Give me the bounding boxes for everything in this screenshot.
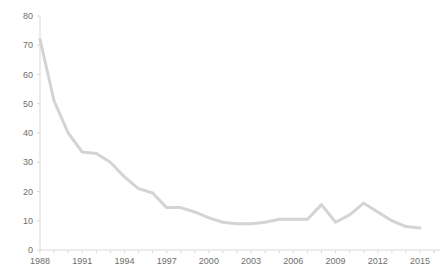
line-chart: 01020304050607080 1988199119941997200020… [0,0,447,280]
y-axis-tick-label: 30 [11,157,33,167]
x-axis-tick-label: 2015 [403,256,437,266]
y-axis-tick-label: 60 [11,70,33,80]
x-axis-tick-label: 2003 [234,256,268,266]
chart-plot-area [0,0,447,280]
y-axis-tick-label: 70 [11,40,33,50]
chart-tick-marks [37,16,434,253]
y-axis-tick-label: 10 [11,216,33,226]
y-axis-tick-label: 0 [11,245,33,255]
data-line-1 [40,39,420,228]
x-axis-tick-label: 1997 [150,256,184,266]
x-axis-tick-label: 2006 [276,256,310,266]
x-axis-tick-label: 2000 [192,256,226,266]
y-axis-tick-label: 50 [11,99,33,109]
y-axis-tick-label: 20 [11,187,33,197]
y-axis-tick-label: 40 [11,128,33,138]
x-axis-tick-label: 1994 [107,256,141,266]
x-axis-tick-label: 2012 [361,256,395,266]
chart-series-lines [40,39,420,228]
x-axis-tick-label: 2009 [319,256,353,266]
y-axis-tick-label: 80 [11,11,33,21]
x-axis-tick-label: 1991 [65,256,99,266]
x-axis-tick-label: 1988 [23,256,57,266]
